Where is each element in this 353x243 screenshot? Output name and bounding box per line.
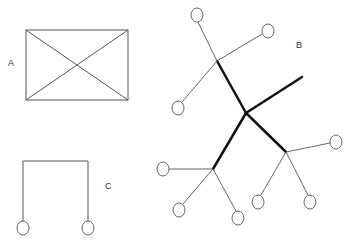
leaf-node xyxy=(262,24,274,38)
leaf-node xyxy=(252,195,264,209)
edge-center-free xyxy=(246,77,302,113)
figure-b xyxy=(157,8,342,225)
figure-a xyxy=(26,30,128,100)
leaf-node xyxy=(157,162,169,176)
figure-c-node-left xyxy=(17,221,29,235)
diagram-canvas: A B xyxy=(0,0,353,243)
leaf-node xyxy=(304,195,316,209)
edge-center-lowerleft xyxy=(213,113,246,169)
leaf-node xyxy=(232,211,244,225)
label-a: A xyxy=(8,58,14,68)
label-c: C xyxy=(105,181,112,191)
figure-c-bracket xyxy=(23,161,88,221)
figure-c xyxy=(17,161,94,235)
leaf-node xyxy=(330,135,342,149)
edge-center-upper xyxy=(217,61,246,113)
figure-b-thick-edges xyxy=(213,61,302,169)
edge-center-lowerright xyxy=(246,113,286,152)
leaf-node xyxy=(191,8,203,22)
leaf-node xyxy=(173,203,185,217)
leaf-node xyxy=(172,101,184,115)
label-b: B xyxy=(296,40,302,50)
figure-c-node-right xyxy=(82,221,94,235)
